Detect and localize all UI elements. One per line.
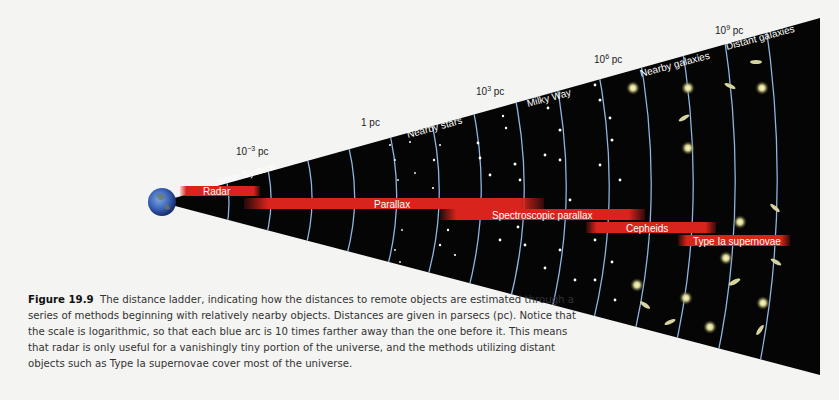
earth-icon (148, 188, 176, 216)
figure-caption: Figure 19.9 The distance ladder, indicat… (28, 292, 588, 372)
bar-label-spectroscopic-parallax: Spectroscopic parallax (492, 210, 593, 221)
bar-label-cepheids: Cepheids (626, 223, 668, 234)
distance-1e-3-pc: 10−3 pc (236, 145, 268, 157)
bar-label-parallax: Parallax (374, 199, 410, 210)
bar-label-radar: Radar (203, 186, 231, 197)
distance-1e3-pc: 103 pc (476, 85, 504, 97)
caption-text: The distance ladder, indicating how the … (28, 294, 576, 369)
figure-number: Figure 19.9 (28, 294, 94, 305)
distance-1-pc: 1 pc (361, 117, 380, 128)
bar-label-type-ia-supernovae: Type Ia supernovae (693, 236, 781, 247)
distance-1e9-pc: 109 pc (715, 24, 743, 36)
distance-1e6-pc: 106 pc (594, 53, 622, 65)
